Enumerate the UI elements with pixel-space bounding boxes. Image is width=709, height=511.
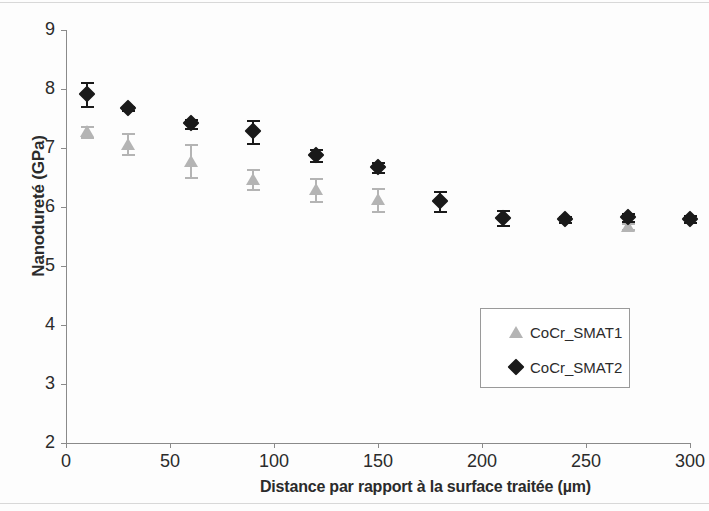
triangle-marker-icon <box>80 125 94 137</box>
scan-edge-bottom <box>0 503 709 504</box>
x-axis-tick <box>586 443 587 448</box>
error-bar-cap <box>81 137 94 139</box>
y-axis-tick: 5 <box>61 266 66 267</box>
error-bar-cap <box>185 144 198 146</box>
y-axis-tick: 3 <box>61 384 66 385</box>
diamond-marker-icon <box>432 193 449 210</box>
x-axis-tick-label: 100 <box>259 451 289 472</box>
triangle-marker-icon <box>121 138 135 150</box>
error-bar-cap <box>310 201 323 203</box>
y-axis-tick: 7 <box>61 148 66 149</box>
triangle-marker-icon <box>371 193 385 205</box>
x-axis-tick <box>690 443 691 448</box>
error-bar-cap <box>247 189 260 191</box>
error-bar-cap <box>122 154 135 156</box>
legend-entry-cocr-smat1: CoCr_SMAT1 <box>509 322 622 342</box>
y-axis-tick-label: 3 <box>45 373 55 394</box>
error-bar-cap <box>247 120 260 122</box>
scan-edge-top <box>0 2 709 3</box>
y-axis-tick-label: 4 <box>45 314 55 335</box>
error-bar-cap <box>434 211 447 213</box>
y-axis-tick-label: 6 <box>45 196 55 217</box>
y-axis-tick-label: 5 <box>45 255 55 276</box>
error-bar-cap <box>372 211 385 213</box>
diamond-marker-icon <box>682 210 699 227</box>
y-axis-tick: 9 <box>61 30 66 31</box>
error-bar-cap <box>81 106 94 108</box>
diamond-marker-icon <box>509 360 523 374</box>
x-axis-tick <box>66 443 67 448</box>
x-axis-tick-label: 300 <box>675 451 705 472</box>
triangle-marker-icon <box>509 325 523 339</box>
legend-entry-cocr-smat2: CoCr_SMAT2 <box>509 357 622 377</box>
triangle-marker-icon <box>309 183 323 195</box>
diamond-marker-icon <box>557 210 574 227</box>
y-axis-tick-label: 9 <box>45 19 55 40</box>
error-bar-cap <box>372 188 385 190</box>
legend-label: CoCr_SMAT2 <box>530 359 622 376</box>
x-axis-tick-label: 50 <box>160 451 180 472</box>
y-axis-tick-label: 7 <box>45 137 55 158</box>
diamond-marker-icon <box>78 85 95 102</box>
diamond-marker-icon <box>245 123 262 140</box>
y-axis-tick-label: 8 <box>45 78 55 99</box>
chart-figure: Nanodureté (GPa) Distance par rapport à … <box>0 0 709 511</box>
error-bar-cap <box>81 82 94 84</box>
x-axis-tick-label: 150 <box>363 451 393 472</box>
x-axis-tick <box>378 443 379 448</box>
triangle-marker-icon <box>184 155 198 167</box>
error-bar-cap <box>247 169 260 171</box>
error-bar-cap <box>247 143 260 145</box>
x-axis-title: Distance par rapport à la surface traité… <box>260 478 591 496</box>
y-axis-tick: 8 <box>61 89 66 90</box>
x-axis-tick <box>170 443 171 448</box>
error-bar-cap <box>185 177 198 179</box>
x-axis-tick-label: 0 <box>61 451 71 472</box>
x-axis-tick <box>482 443 483 448</box>
x-axis-tick-label: 200 <box>467 451 497 472</box>
diamond-marker-icon <box>120 99 137 116</box>
y-axis-tick-label: 2 <box>45 432 55 453</box>
error-bar-cap <box>310 178 323 180</box>
y-axis-tick: 6 <box>61 207 66 208</box>
x-axis-tick <box>274 443 275 448</box>
triangle-marker-icon <box>246 173 260 185</box>
y-axis-line <box>66 30 67 444</box>
error-bar-cap <box>122 133 135 135</box>
y-axis-tick: 4 <box>61 325 66 326</box>
legend-label: CoCr_SMAT1 <box>530 324 622 341</box>
x-axis-tick-label: 250 <box>571 451 601 472</box>
chart-legend: CoCr_SMAT1 CoCr_SMAT2 <box>480 308 630 388</box>
